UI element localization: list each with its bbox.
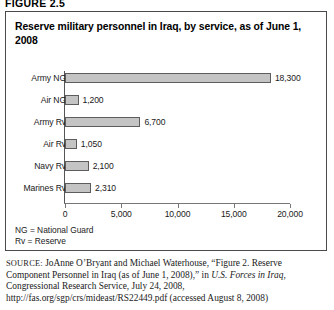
bar	[65, 161, 89, 171]
bar-row: Army NG18,300	[6, 69, 328, 91]
chart-title: Reserve military personnel in Iraq, by s…	[15, 20, 311, 47]
bar	[65, 183, 91, 193]
bar-row: Marines Rv2,310	[6, 179, 328, 201]
x-tick-mark	[121, 204, 122, 208]
x-tick-label: 10,000	[165, 209, 191, 219]
x-tick-label: 15,000	[221, 209, 247, 219]
bar	[65, 139, 77, 149]
source-text-part2: Congressional Research Service, July 24,…	[6, 281, 268, 303]
bar-category-label: Marines Rv	[0, 183, 66, 193]
bar	[65, 73, 271, 83]
source-note: SOURCE: JoAnne O’Bryant and Michael Wate…	[6, 258, 324, 304]
x-tick-label: 0	[63, 209, 68, 219]
bar-category-label: Army Rv	[0, 117, 66, 127]
bar-value-label: 1,050	[81, 139, 102, 149]
bar	[65, 95, 79, 105]
x-tick-mark	[234, 204, 235, 208]
bar-row: Army Rv6,700	[6, 113, 328, 135]
x-tick-label: 20,000	[277, 209, 303, 219]
bar-value-label: 2,310	[95, 183, 116, 193]
x-tick-mark	[178, 204, 179, 208]
bar-category-label: Air Rv	[0, 139, 66, 149]
key-block: NG = National Guard Rv = Reserve	[15, 225, 93, 246]
bar-value-label: 18,300	[275, 73, 301, 83]
bar-row: Air NG1,200	[6, 91, 328, 113]
bar-category-label: Navy Rv	[0, 161, 66, 171]
figure-number: FIGURE 2.5	[5, 0, 65, 9]
bar-row: Navy Rv2,100	[6, 157, 328, 179]
bar-value-label: 6,700	[144, 117, 165, 127]
x-tick-mark	[65, 204, 66, 208]
bar-chart-plot: Army NG18,300Air NG1,200Army Rv6,700Air …	[6, 69, 328, 219]
bar-value-label: 1,200	[83, 95, 104, 105]
source-italic-title: U.S. Forces in Iraq,	[211, 270, 286, 280]
bar-category-label: Air NG	[0, 95, 66, 105]
figure-box: Reserve military personnel in Iraq, by s…	[5, 11, 327, 251]
source-label: SOURCE:	[6, 259, 43, 268]
x-tick-label: 5,000	[111, 209, 132, 219]
bar-value-label: 2,100	[93, 161, 114, 171]
bar-row: Air Rv1,050	[6, 135, 328, 157]
key-line-national-guard: NG = National Guard	[15, 225, 93, 236]
bar-category-label: Army NG	[0, 73, 66, 83]
bar	[65, 117, 140, 127]
x-tick-mark	[290, 204, 291, 208]
key-line-reserve: Rv = Reserve	[15, 236, 93, 247]
